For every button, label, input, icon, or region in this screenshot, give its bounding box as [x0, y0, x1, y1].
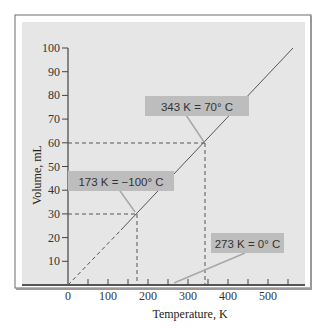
y-tick-label: 40	[48, 183, 60, 197]
x-tick-label: 0	[65, 289, 71, 303]
y-tick-label: 80	[48, 88, 60, 102]
y-tick-label: 70	[48, 112, 60, 126]
y-tick-label: 10	[48, 254, 60, 268]
y-tick-label: 50	[48, 160, 60, 174]
y-tick-label: 60	[48, 136, 60, 150]
x-tick-labels: 0 100 200 300 400 500	[65, 289, 277, 303]
x-tick-label: 100	[99, 289, 117, 303]
callout-173k: 173 K = −100° C	[68, 171, 174, 191]
svg-text:173 K = −100° C: 173 K = −100° C	[78, 176, 163, 188]
x-tick-label: 400	[219, 289, 237, 303]
chart: 100 90 80 70 60 50 40 30 20 10 0 100 200…	[0, 0, 326, 329]
y-axis-title: Volume, mL	[30, 145, 44, 205]
x-axis-title: Temperature, K	[152, 307, 227, 321]
x-tick-label: 200	[139, 289, 157, 303]
y-tick-label: 90	[48, 65, 60, 79]
svg-text:343 K = 70° C: 343 K = 70° C	[161, 101, 233, 113]
y-tick-label: 20	[48, 231, 60, 245]
callout-343k: 343 K = 70° C	[145, 96, 249, 116]
svg-text:273 K = 0° C: 273 K = 0° C	[215, 238, 281, 250]
x-tick-label: 500	[259, 289, 277, 303]
x-tick-label: 300	[179, 289, 197, 303]
y-tick-label: 100	[42, 41, 60, 55]
callout-273k: 273 K = 0° C	[211, 233, 284, 253]
y-tick-label: 30	[48, 207, 60, 221]
